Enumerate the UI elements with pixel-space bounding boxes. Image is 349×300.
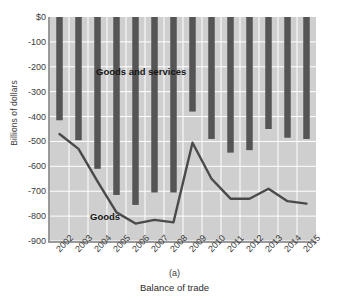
chart-figure: Billions of dollars $0-100-200-300-400-5… [0,0,349,300]
panel-identifier: (a) [0,268,349,278]
y-tick-label: -400 [2,112,46,122]
y-tick-label: -200 [2,62,46,72]
bar [132,17,139,205]
series-label-goods: Goods [90,211,120,222]
y-axis: Billions of dollars $0-100-200-300-400-5… [0,0,46,300]
y-tick-label: -700 [2,186,46,196]
figure-caption: Balance of trade [0,282,349,293]
bar [113,17,120,195]
chart-canvas [50,17,316,241]
plot-area [48,17,316,243]
bar [227,17,234,153]
y-tick-label: -800 [2,211,46,221]
bar [189,17,196,112]
series-label-goods-and-services: Goods and services [96,66,186,77]
bar [94,17,101,169]
bar [56,17,63,120]
y-tick-label: -100 [2,37,46,47]
bar [151,17,158,192]
bar [208,17,215,139]
bar [75,17,82,140]
vertical-gridlines [69,17,297,241]
bar [284,17,291,138]
y-tick-label: $0 [2,12,46,22]
y-tick-label: -600 [2,161,46,171]
bar [170,17,177,192]
y-tick-label: -900 [2,236,46,246]
y-tick-label: -500 [2,136,46,146]
bar [246,17,253,150]
bar [303,17,310,139]
bar [265,17,272,129]
y-tick-label: -300 [2,87,46,97]
